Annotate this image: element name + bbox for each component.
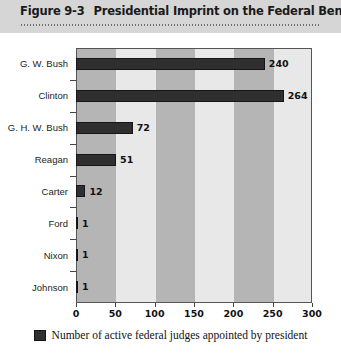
y-axis-tick [70,207,76,208]
chart-canvas: 240264725112111 G. W. BushClintonG. H. W… [0,33,341,364]
y-axis-tick [70,112,76,113]
bar [76,122,133,134]
x-axis-tick [273,303,274,307]
y-axis-label: Clinton [38,80,68,112]
bar-row: 12 [76,176,312,208]
bar [76,58,265,70]
figure-number: Figure 9-3 [20,4,84,18]
y-axis-tick [70,176,76,177]
bar-row: 264 [76,80,312,112]
x-axis-tick [312,303,313,307]
y-axis-label: Nixon [44,239,68,271]
bar [76,185,85,197]
x-axis-tick [155,303,156,307]
figure-header: Figure 9-3 Presidential Imprint on the F… [20,4,341,18]
x-axis-tick-label: 200 [223,308,243,319]
y-axis-label: G. W. Bush [20,48,68,80]
bar [76,281,78,293]
figure-title: Presidential Imprint on the Federal Benc… [93,4,341,18]
x-axis-tick-label: 250 [263,308,283,319]
bar-row: 51 [76,144,312,176]
bar-value-label: 1 [82,250,89,260]
bar-row: 1 [76,239,312,271]
x-axis-tick-label: 100 [145,308,165,319]
x-axis-tick [194,303,195,307]
bar-value-label: 72 [137,123,150,133]
y-axis-label: Johnson [32,271,68,303]
figure-header-band: Figure 9-3 Presidential Imprint on the F… [0,0,341,33]
x-axis-tick [233,303,234,307]
bar-row: 72 [76,112,312,144]
chart-legend: Number of active federal judges appointe… [0,329,341,341]
x-axis-tick [76,303,77,307]
bar-rows: 240264725112111 [76,48,312,303]
bar [76,154,116,166]
bar-value-label: 264 [288,91,308,101]
bar-value-label: 12 [89,187,102,197]
y-axis-label: Ford [48,207,68,239]
y-axis-label: G. H. W. Bush [8,112,68,144]
bar-row: 240 [76,48,312,80]
bar-value-label: 1 [82,219,89,229]
bar [76,217,78,229]
x-axis-tick [115,303,116,307]
x-axis-tick-label: 50 [109,308,122,319]
y-axis-tick [70,144,76,145]
header-dotted-rule [20,24,321,26]
y-axis-label: Reagan [35,144,68,176]
bar-value-label: 240 [269,59,289,69]
y-axis-labels: G. W. BushClintonG. H. W. BushReaganCart… [0,48,72,303]
bar-value-label: 1 [82,282,89,292]
y-axis-tick [70,80,76,81]
y-axis-tick [70,239,76,240]
x-axis-tick-label: 300 [302,308,322,319]
figure-container: Figure 9-3 Presidential Imprint on the F… [0,0,341,364]
legend-label: Number of active federal judges appointe… [52,329,308,341]
bar-row: 1 [76,271,312,303]
bar-row: 1 [76,207,312,239]
bar [76,90,284,102]
y-axis-tick [70,271,76,272]
x-axis-tick-label: 0 [73,308,80,319]
legend-swatch-icon [34,330,46,341]
x-axis-tick-label: 150 [184,308,204,319]
bar [76,249,78,261]
y-axis-label: Carter [42,176,68,208]
bar-value-label: 51 [120,155,133,165]
